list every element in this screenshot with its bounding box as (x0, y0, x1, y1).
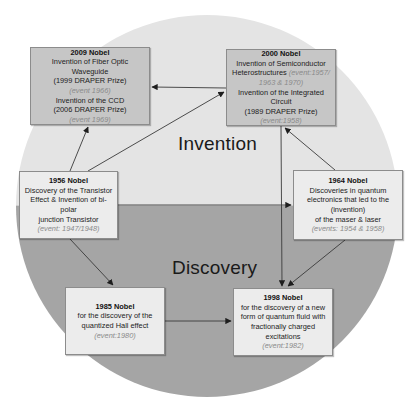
node-text: form of quantum fluid with (237, 312, 329, 322)
node-event: (event 1969) (34, 115, 146, 125)
node-text: Invention of Semiconductor (230, 59, 332, 69)
node-text: (1999 DRAPER Prize) (34, 76, 146, 86)
node-text: junction Transistor (23, 215, 114, 225)
node-1956-nobel: 1956 Nobel Discovery of the Transistor E… (19, 171, 118, 239)
node-title: 1964 Nobel (297, 176, 399, 186)
node-text: (1989 DRAPER Prize) (230, 107, 332, 117)
node-title: 1985 Nobel (69, 302, 161, 312)
node-text: Invention of Fiber Optic Waveguide (34, 57, 146, 76)
node-text: of the maser & laser (297, 215, 399, 225)
node-text: for the discovery of a new (237, 303, 329, 313)
node-event: (event: 1947/1948) (23, 224, 114, 234)
node-title: 2009 Nobel (34, 48, 146, 58)
node-event: (events: 1954 & 1958) (297, 224, 399, 234)
node-text: Discoveries in quantum (297, 186, 399, 196)
nobel-invention-discovery-diagram: Invention Discovery 2009 Nobel Invention… (0, 0, 419, 412)
invention-label: Invention (178, 133, 257, 155)
node-text: Effect & Invention of bi-polar (23, 195, 114, 214)
node-2000-nobel: 2000 Nobel Invention of Semiconductor He… (226, 49, 336, 126)
node-text: electronics that led to the (297, 195, 399, 205)
node-title: 1998 Nobel (237, 293, 329, 303)
node-text: for the discovery of the (69, 311, 161, 321)
node-event: (event:1980) (69, 331, 161, 341)
node-1964-nobel: 1964 Nobel Discoveries in quantum electr… (293, 170, 403, 240)
node-event: (event:1958) (230, 116, 332, 126)
node-event: (event 1966) (34, 86, 146, 96)
node-text: Heterostructures (232, 68, 287, 77)
node-text: Heterostructures (event:1957/ 1963 & 197… (230, 68, 332, 87)
node-title: 1956 Nobel (23, 176, 114, 186)
node-text: (2006 DRAPER Prize) (34, 105, 146, 115)
node-text: fractionally charged (237, 322, 329, 332)
node-text: (invention) (297, 205, 399, 215)
node-text: Invention of the CCD (34, 96, 146, 106)
node-1985-nobel: 1985 Nobel for the discovery of the quan… (65, 287, 165, 355)
node-event: (event:1982) (237, 341, 329, 351)
node-1998-nobel: 1998 Nobel for the discovery of a new fo… (233, 288, 333, 356)
node-text: quantized Hall effect (69, 321, 161, 331)
discovery-label: Discovery (172, 257, 257, 279)
node-2009-nobel: 2009 Nobel Invention of Fiber Optic Wave… (30, 47, 150, 125)
node-text: excitations (237, 332, 329, 342)
node-title: 2000 Nobel (230, 49, 332, 59)
node-text: Discovery of the Transistor (23, 186, 114, 196)
node-text: Invention of the Integrated (230, 88, 332, 98)
node-text: Circuit (230, 97, 332, 107)
